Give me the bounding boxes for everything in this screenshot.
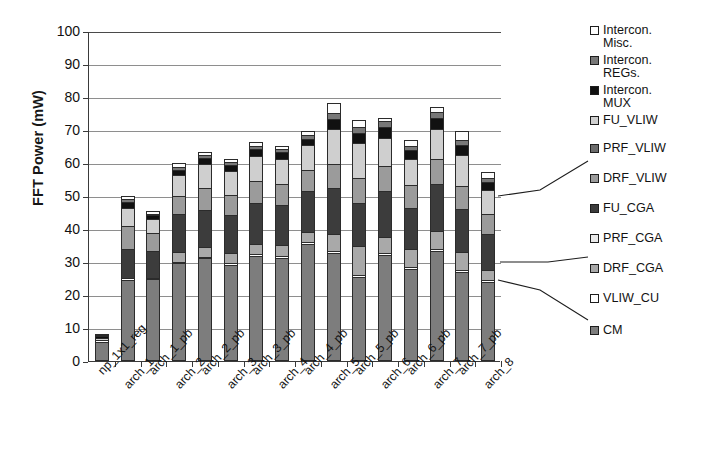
bar-segment-drf_cga bbox=[199, 248, 211, 258]
legend-item-drf_cga[interactable]: DRF_CGA bbox=[590, 262, 663, 275]
legend-item-prf_vliw[interactable]: PRF_VLIW bbox=[590, 142, 666, 155]
legend-swatch-icon bbox=[590, 234, 599, 243]
bar-segment-fu_cga bbox=[328, 189, 340, 235]
legend-item-prf_cga[interactable]: PRF_CGA bbox=[590, 232, 662, 245]
legend-item-intercon[interactable]: Intercon. REGs. bbox=[590, 54, 652, 81]
y-tick-label: 20 bbox=[42, 287, 80, 303]
bar-segment-fu_vliw bbox=[353, 144, 365, 179]
y-tick-label: 60 bbox=[42, 155, 80, 171]
bar-segment-cm bbox=[147, 280, 159, 360]
y-axis-title: FFT Power (mW) bbox=[30, 48, 46, 248]
bar-segment-cm bbox=[199, 259, 211, 360]
legend-label: DRF_VLIW bbox=[603, 172, 667, 185]
bar-segment-drf_vliw bbox=[225, 196, 237, 216]
bar-segment-interconmux bbox=[302, 140, 314, 147]
y-tick-mark bbox=[83, 329, 88, 330]
bar-arch_6_pb bbox=[404, 140, 418, 361]
bar-segment-drf_cga bbox=[225, 254, 237, 264]
legend-label: DRF_CGA bbox=[603, 262, 663, 275]
bar-segment-fu_vliw bbox=[147, 220, 159, 234]
legend-swatch-icon bbox=[590, 174, 599, 183]
bar-segment-interconmisc bbox=[353, 121, 365, 128]
y-tick-mark bbox=[83, 197, 88, 198]
bar-segment-fu_cga bbox=[431, 185, 443, 232]
bar-segment-drf_vliw bbox=[405, 186, 417, 208]
bar-segment-fu_vliw bbox=[482, 191, 494, 215]
bar-segment-cm bbox=[405, 270, 417, 360]
bar-segment-drf_cga bbox=[482, 271, 494, 281]
bar-segment-drf_vliw bbox=[276, 185, 288, 206]
bar-segment-cm bbox=[250, 257, 262, 360]
bar-segment-fu_cga bbox=[122, 250, 134, 279]
bar-segment-interconmux bbox=[328, 120, 340, 131]
bar-segment-drf_vliw bbox=[122, 227, 134, 250]
bar-segment-fu_cga bbox=[302, 192, 314, 233]
bar-arch_5 bbox=[327, 103, 341, 361]
bar-group bbox=[89, 31, 501, 361]
y-tick-label: 100 bbox=[42, 23, 80, 39]
bar-segment-fu_cga bbox=[276, 206, 288, 247]
y-tick-mark bbox=[83, 32, 88, 33]
bar-segment-fu_vliw bbox=[173, 176, 185, 196]
legend-swatch-icon bbox=[590, 116, 599, 125]
legend-label: FU_VLIW bbox=[603, 114, 658, 127]
legend-swatch-icon bbox=[590, 144, 599, 153]
bar-segment-drf_vliw bbox=[456, 187, 468, 210]
x-axis-labels: np_1x1_regarch_1arch_1_pbarch_2arch_2_pb… bbox=[88, 366, 518, 464]
legend-label: PRF_CGA bbox=[603, 232, 662, 245]
bar-segment-drf_vliw bbox=[353, 179, 365, 204]
bar-segment-drf_cga bbox=[302, 233, 314, 243]
legend-item-vliw_cu[interactable]: VLIW_CU bbox=[590, 292, 659, 305]
chart-figure: FFT Power (mW) 0102030405060708090100 np… bbox=[0, 0, 702, 464]
bar-arch_4_pb bbox=[301, 131, 315, 361]
bar-segment-cm bbox=[302, 245, 314, 361]
y-tick-mark bbox=[83, 362, 88, 363]
y-tick-label: 30 bbox=[42, 254, 80, 270]
bar-segment-fu_cga bbox=[353, 204, 365, 248]
bar-segment-fu_vliw bbox=[379, 139, 391, 167]
legend-item-intercon[interactable]: Intercon. MUX bbox=[590, 84, 652, 111]
bar-segment-fu_vliw bbox=[405, 160, 417, 186]
legend-swatch-icon bbox=[590, 26, 599, 35]
bar-segment-drf_cga bbox=[379, 238, 391, 255]
y-tick-mark bbox=[83, 164, 88, 165]
bar-segment-fu_vliw bbox=[431, 130, 443, 160]
legend-label: Intercon. MUX bbox=[603, 84, 652, 111]
bar-segment-fu_vliw bbox=[122, 209, 134, 227]
legend-label: Intercon. Misc. bbox=[603, 24, 652, 51]
legend-label: CM bbox=[603, 324, 623, 337]
bar-segment-fu_vliw bbox=[328, 130, 340, 164]
bar-segment-interconmux bbox=[456, 146, 468, 156]
y-tick-label: 40 bbox=[42, 221, 80, 237]
legend-swatch-icon bbox=[590, 56, 599, 65]
bar-segment-drf_vliw bbox=[173, 197, 185, 215]
bar-segment-fu_cga bbox=[173, 215, 185, 253]
bar-segment-interconmux bbox=[379, 128, 391, 139]
legend-item-fu_cga[interactable]: FU_CGA bbox=[590, 202, 654, 215]
bar-segment-fu_cga bbox=[456, 210, 468, 253]
bar-arch_7_pb bbox=[455, 131, 469, 361]
y-tick-label: 70 bbox=[42, 122, 80, 138]
bar-segment-interconmux bbox=[405, 151, 417, 160]
bar-arch_2_pb bbox=[198, 152, 212, 361]
bar-segment-drf_cga bbox=[276, 246, 288, 257]
legend-item-cm[interactable]: CM bbox=[590, 324, 623, 337]
bar-segment-drf_vliw bbox=[431, 160, 443, 186]
legend-item-intercon[interactable]: Intercon. Misc. bbox=[590, 24, 652, 51]
bar-segment-drf_vliw bbox=[250, 182, 262, 204]
bar-segment-fu_cga bbox=[405, 209, 417, 251]
bar-segment-fu_vliw bbox=[456, 156, 468, 187]
y-tick-mark bbox=[83, 296, 88, 297]
y-tick-label: 10 bbox=[42, 320, 80, 336]
legend-swatch-icon bbox=[590, 294, 599, 303]
plot-area bbox=[88, 32, 500, 362]
bar-segment-fu_vliw bbox=[225, 172, 237, 196]
bar-segment-cm bbox=[456, 273, 468, 360]
legend-item-drf_vliw[interactable]: DRF_VLIW bbox=[590, 172, 667, 185]
bar-segment-fu_vliw bbox=[302, 146, 314, 171]
bar-segment-fu_cga bbox=[147, 252, 159, 278]
legend-item-fu_vliw[interactable]: FU_VLIW bbox=[590, 114, 658, 127]
bar-segment-fu_cga bbox=[225, 216, 237, 254]
bar-segment-drf_cga bbox=[431, 232, 443, 250]
y-tick-mark bbox=[83, 263, 88, 264]
